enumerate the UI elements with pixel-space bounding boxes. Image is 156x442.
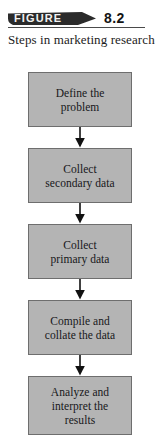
flowchart-node-2: Collect secondary data — [28, 148, 132, 203]
flowchart-node-1: Define the problem — [28, 72, 132, 127]
figure-number: 8.2 — [104, 10, 125, 26]
flowchart-arrow-2-to-3 — [74, 203, 86, 224]
flowchart-arrow-1-to-2 — [74, 127, 86, 148]
flowchart-arrow-4-to-5 — [74, 355, 86, 376]
flowchart-node-1-label: Define the problem — [52, 86, 109, 114]
flowchart-node-5: Analyze and interpret the results — [28, 376, 132, 435]
flowchart: Define the problem Collect secondary dat… — [0, 58, 156, 442]
flowchart-node-3-label: Collect primary data — [46, 238, 113, 266]
figure-header: FIGURE 8.2 — [0, 0, 156, 32]
header-divider — [8, 27, 145, 28]
figure-label: FIGURE — [14, 12, 82, 24]
flowchart-node-3: Collect primary data — [28, 224, 132, 279]
figure-caption: Steps in marketing research — [8, 32, 152, 48]
flowchart-node-2-label: Collect secondary data — [41, 162, 118, 190]
flowchart-node-5-label: Analyze and interpret the results — [47, 385, 113, 427]
flowchart-arrow-3-to-4 — [74, 279, 86, 300]
flowchart-node-4: Compile and collate the data — [28, 300, 132, 355]
flowchart-node-4-label: Compile and collate the data — [41, 314, 119, 342]
